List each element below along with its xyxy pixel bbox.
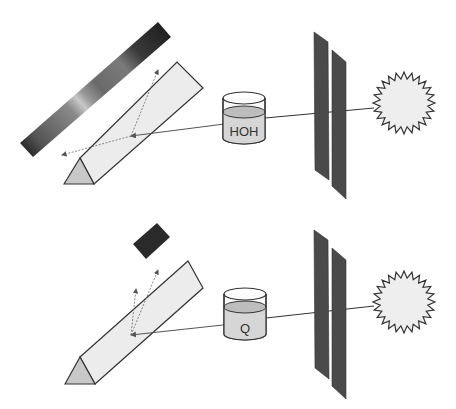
top-setup: HOH bbox=[20, 22, 435, 199]
sample-beaker-hoh: HOH bbox=[223, 92, 265, 144]
slit-plate-2 bbox=[332, 248, 346, 399]
slit-plate-1 bbox=[314, 230, 329, 379]
slit-plate-1 bbox=[314, 32, 329, 180]
bottom-setup: Q bbox=[65, 223, 435, 399]
slit-plate-2 bbox=[332, 50, 346, 199]
prism bbox=[65, 261, 203, 384]
sample-label-q: Q bbox=[240, 321, 250, 336]
sun-icon bbox=[373, 72, 435, 134]
dark-band-block bbox=[133, 223, 170, 259]
sample-beaker-q: Q bbox=[224, 288, 266, 340]
sample-label-hoh: HOH bbox=[230, 124, 259, 139]
spectroscopy-diagram: HOH Q bbox=[0, 0, 456, 409]
sun-icon bbox=[373, 271, 435, 333]
prism bbox=[64, 62, 203, 184]
